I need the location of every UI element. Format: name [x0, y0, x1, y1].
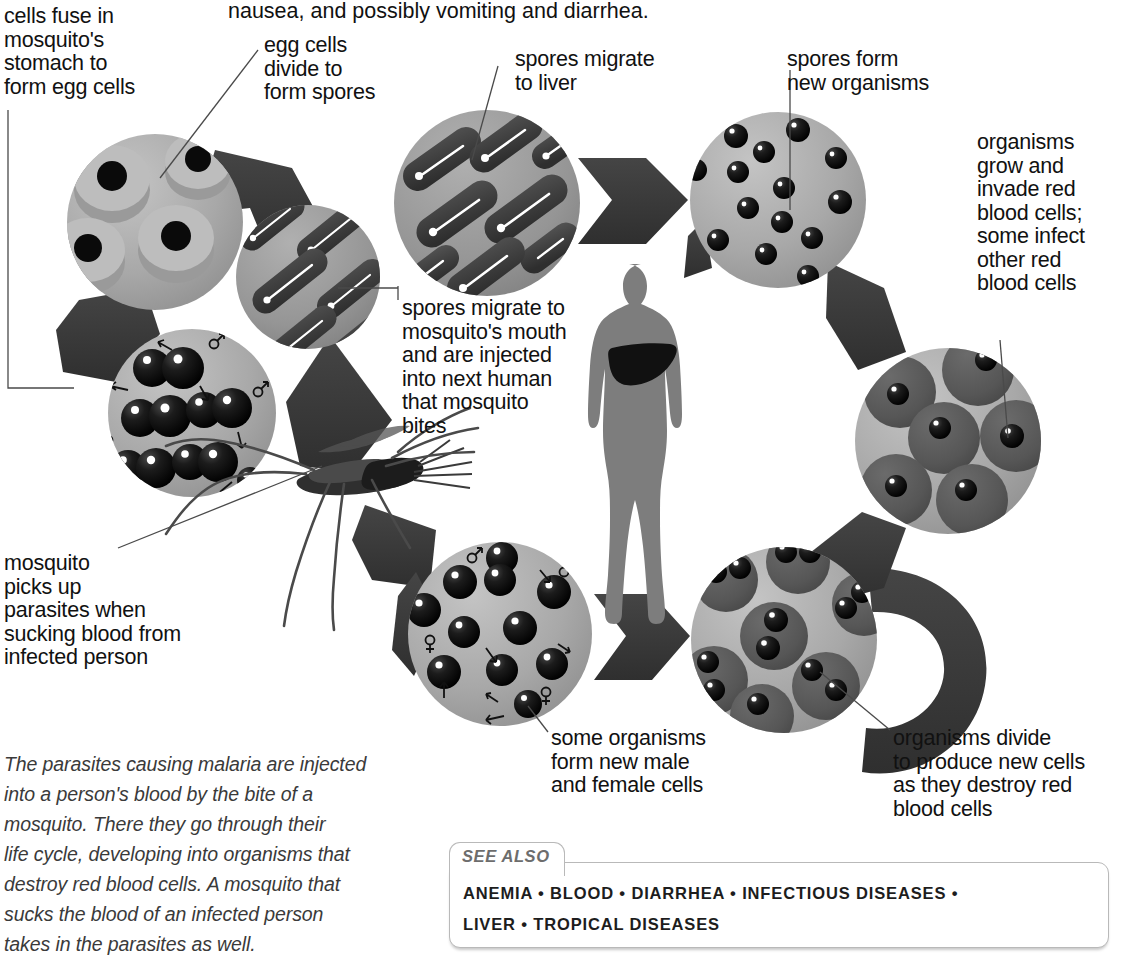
parasite-dot [825, 147, 847, 169]
see-also-line-1[interactable]: ANEMIA • BLOOD • DIARRHEA • INFECTIOUS D… [463, 878, 1093, 909]
gamete [536, 648, 568, 680]
stage-spores-mosquito [236, 205, 386, 355]
blood-cell [942, 334, 1014, 406]
parasite-dot [773, 177, 795, 199]
gamete [486, 654, 518, 686]
parasite-dot [685, 159, 707, 181]
gamete [503, 611, 537, 645]
see-also-line-2[interactable]: LIVER • TROPICAL DISEASES [463, 909, 1093, 940]
parasite-dot [707, 229, 729, 251]
label-mosquito-picks-up: mosquito picks up parasites when sucking… [4, 552, 244, 670]
blood-cell-dividing [792, 652, 860, 720]
parasite-dot [755, 243, 777, 265]
arrow-spores-to-mouth [286, 336, 392, 472]
label-spores-migrate-mouth: spores migrate to mosquito's mouth and a… [402, 297, 612, 438]
parasite-dot [727, 161, 749, 183]
parasite-dot [771, 211, 793, 233]
parasite-dot [801, 227, 823, 249]
blood-cell-dividing [766, 530, 830, 594]
fusing-pair [110, 448, 176, 488]
gamete [514, 690, 542, 718]
see-also-box: SEE ALSO ANEMIA • BLOOD • DIARRHEA • INF… [449, 842, 1109, 948]
blood-cell-dividing [740, 602, 808, 670]
label-organisms-grow: organisms grow and invade red blood cell… [977, 131, 1121, 296]
stage-new-organisms [685, 112, 866, 288]
liver-organ [608, 343, 677, 385]
fusing-pair [172, 442, 238, 482]
parasite-dot [753, 141, 775, 163]
arrow-neworg-to-invade [826, 262, 906, 370]
gamete [537, 575, 571, 609]
stage-spores-liver [394, 110, 580, 296]
gamete [443, 565, 477, 599]
label-cells-fuse: cells fuse in mosquito's stomach to form… [4, 5, 214, 99]
gamete [448, 616, 480, 648]
stage-invaded-cells [855, 334, 1052, 536]
label-egg-cells-divide: egg cells divide to form spores [264, 34, 444, 105]
parasite-dot [828, 190, 852, 214]
gamete [484, 564, 516, 596]
see-also-entries: ANEMIA • BLOOD • DIARRHEA • INFECTIOUS D… [463, 878, 1093, 940]
label-some-organisms: some organisms form new male and female … [551, 727, 781, 798]
fusing-pair [121, 395, 191, 437]
spore-capsule [534, 236, 566, 260]
figure-caption: The parasites causing malaria are inject… [4, 749, 424, 959]
fusing-pair [133, 347, 204, 389]
blood-cell-dividing [694, 548, 758, 612]
arrow-mosquito-to-fuse [352, 505, 436, 588]
mosquito-proboscis [414, 440, 472, 488]
egg-cell-disk [138, 205, 214, 283]
parasite-dot [797, 265, 819, 287]
parasite-dot [737, 197, 759, 219]
stage-male-female-cells [407, 542, 592, 726]
fusing-pair [186, 388, 252, 428]
label-spores-migrate-liver: spores migrate to liver [515, 48, 715, 95]
blood-cell [980, 400, 1052, 472]
top-continuation-text: nausea, and possibly vomiting and diarrh… [228, 0, 788, 24]
arrow-liver-to-neworg [578, 158, 688, 244]
blood-cell [936, 464, 1008, 536]
label-organisms-divide: organisms divide to produce new cells as… [893, 727, 1121, 821]
parasite-dot [724, 124, 748, 148]
malaria-lifecycle-figure: nausea, and possibly vomiting and diarrh… [0, 0, 1121, 965]
egg-cell-disk [74, 145, 150, 223]
egg-cell-disk [165, 133, 231, 200]
see-also-heading: SEE ALSO [462, 847, 550, 866]
stage-egg-cells [51, 133, 243, 310]
label-spores-form-new: spores form new organisms [787, 48, 1007, 95]
egg-cell-disk [51, 218, 125, 294]
